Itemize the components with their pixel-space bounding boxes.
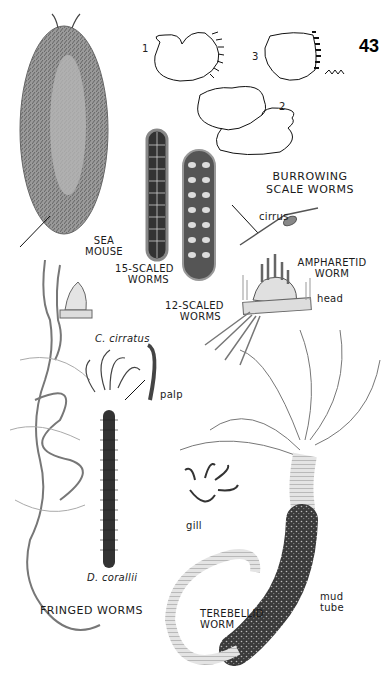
- ampharetid-worm-label: AMPHARETID WORM: [297, 257, 367, 279]
- twelve-scaled-worm-drawing: [183, 150, 258, 280]
- mud-tube-label: mud tube: [320, 591, 344, 613]
- head-label: head: [317, 293, 343, 304]
- burrowing-title-line2: SCALE WORMS: [260, 183, 360, 196]
- diagram-number-2: 2: [279, 101, 285, 112]
- fifteen-scaled-worm-drawing: [147, 130, 167, 260]
- terebellid-line2: WORM: [200, 619, 264, 630]
- burrowing-title-line1: BURROWING: [260, 170, 360, 183]
- fringed-worms-title: FRINGED WORMS: [40, 604, 143, 617]
- fifteen-scaled-line2: WORMS: [115, 274, 169, 285]
- twelve-scaled-line1: 12-SCALED: [165, 300, 221, 311]
- terebellid-line1: TEREBELLID: [200, 608, 264, 619]
- sea-mouse-label-line2: MOUSE: [84, 246, 124, 257]
- twelve-scaled-label: 12-SCALED WORMS: [165, 300, 221, 322]
- page-number: 43: [359, 36, 379, 57]
- diagram-number-1: 1: [142, 43, 148, 54]
- fifteen-scaled-line1: 15-SCALED: [115, 263, 169, 274]
- burrowing-scale-worms-title: BURROWING SCALE WORMS: [260, 170, 360, 196]
- twelve-scaled-line2: WORMS: [165, 311, 221, 322]
- burrowing-diagrams: [155, 32, 344, 155]
- terebellid-worm-label: TEREBELLID WORM: [200, 608, 264, 630]
- mud-tube-line1: mud: [320, 591, 344, 602]
- field-guide-page: 43 1 2 3 BURROWING SCALE WORMS SEA MOUSE…: [0, 0, 391, 694]
- palp-label: palp: [160, 389, 183, 400]
- sea-mouse-label: SEA MOUSE: [84, 235, 124, 257]
- diagram-number-3: 3: [252, 51, 258, 62]
- d-corallii-drawing: [86, 345, 155, 568]
- d-corallii-label: D. corallii: [87, 572, 137, 583]
- sea-mouse-label-line1: SEA: [84, 235, 124, 246]
- gill-label: gill: [186, 520, 202, 531]
- illustration-plate: [0, 0, 391, 694]
- c-cirratus-label: C. cirratus: [95, 333, 150, 344]
- fifteen-scaled-label: 15-SCALED WORMS: [115, 263, 169, 285]
- mud-tube-line2: tube: [320, 602, 344, 613]
- ampharetid-line1: AMPHARETID: [297, 257, 367, 268]
- sea-mouse-drawing: [20, 14, 108, 247]
- cirrus-label: cirrus: [259, 211, 289, 222]
- ampharetid-line2: WORM: [297, 268, 367, 279]
